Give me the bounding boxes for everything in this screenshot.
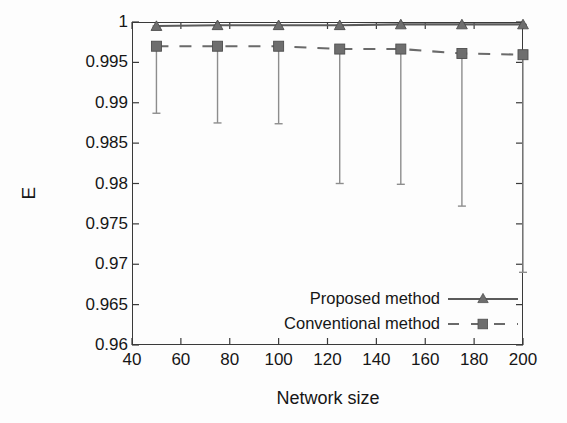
x-axis-label: Network size xyxy=(133,388,523,409)
y-tick-label: 0.965 xyxy=(50,295,128,315)
x-tick-label: 100 xyxy=(264,350,292,370)
x-tick-label: 160 xyxy=(411,350,439,370)
x-tick-label: 40 xyxy=(123,350,142,370)
y-tick-label: 0.985 xyxy=(50,133,128,153)
legend-label-proposed: Proposed method xyxy=(310,289,440,308)
legend-item-conventional: Conventional method xyxy=(312,311,520,336)
x-tick-label: 200 xyxy=(509,350,537,370)
chart-legend: Proposed method Conventional method xyxy=(312,286,520,336)
legend-item-proposed: Proposed method xyxy=(312,286,520,311)
y-tick-label: 0.98 xyxy=(50,174,128,194)
y-tick-label: 1 xyxy=(50,12,128,32)
x-tick-label: 140 xyxy=(362,350,390,370)
x-tick-label: 60 xyxy=(171,350,190,370)
y-tick-label: 0.97 xyxy=(50,254,128,274)
y-tick-label: 0.995 xyxy=(50,52,128,72)
legend-sample-dashed-square-icon xyxy=(446,314,520,334)
y-axis-tick-labels: 0.960.9650.970.9750.980.9850.990.9951 xyxy=(44,0,128,423)
y-tick-label: 0.975 xyxy=(50,214,128,234)
x-tick-label: 80 xyxy=(220,350,239,370)
y-tick-label: 0.96 xyxy=(50,335,128,355)
y-tick-label: 0.99 xyxy=(50,93,128,113)
legend-sample-solid-triangle-icon xyxy=(446,289,520,309)
x-tick-label: 120 xyxy=(313,350,341,370)
legend-label-conventional: Conventional method xyxy=(284,314,440,333)
chart-figure: E 0.960.9650.970.9750.980.9850.990.9951 … xyxy=(0,0,567,423)
x-tick-label: 180 xyxy=(460,350,488,370)
